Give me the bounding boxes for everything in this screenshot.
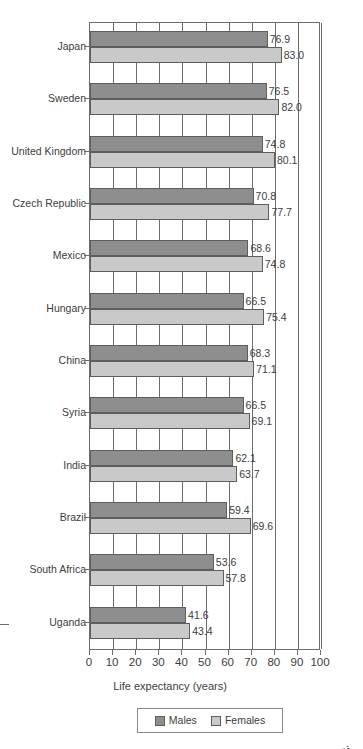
- category-label: Czech Republic: [0, 198, 86, 209]
- source-caption: Sigelman & Rider, Life-span human develo…: [339, 745, 350, 749]
- bar-females: 69.6: [90, 518, 251, 534]
- category-label: Syria: [0, 407, 86, 418]
- bar-group: 68.371.1: [90, 337, 319, 389]
- bar-value-label: 59.4: [229, 505, 249, 516]
- category-label: India: [0, 460, 86, 471]
- bar-value-label: 53.6: [216, 557, 236, 568]
- bar-males: 76.9: [90, 31, 268, 47]
- bar-group: 41.643.4: [90, 599, 319, 651]
- category-tick: [84, 255, 89, 256]
- bar-group: 62.163.7: [90, 442, 319, 494]
- source-caption-suffix: (4th ed.). Belmont, CA: Wadsworth/Thomso…: [338, 745, 350, 749]
- bar-group: 70.877.7: [90, 180, 319, 232]
- x-axis-tick: [89, 650, 90, 655]
- bar-males: 68.3: [90, 345, 248, 361]
- legend-swatch-icon: [155, 716, 165, 726]
- legend-item-females: Females: [211, 715, 265, 726]
- bar-value-label: 75.4: [266, 311, 286, 322]
- bar-value-label: 66.5: [246, 295, 266, 306]
- bar-females: 75.4: [90, 309, 264, 325]
- bar-females: 83.0: [90, 47, 282, 63]
- bar-value-label: 66.5: [246, 400, 266, 411]
- bar-females: 43.4: [90, 623, 190, 639]
- bar-males: 62.1: [90, 450, 233, 466]
- bar-value-label: 41.6: [188, 609, 208, 620]
- category-label: Brazil: [0, 512, 86, 523]
- legend-item-males: Males: [155, 715, 197, 726]
- bar-females: 80.1: [90, 152, 275, 168]
- category-tick: [84, 412, 89, 413]
- bar-females: 82.0: [90, 99, 279, 115]
- bar-males: 59.4: [90, 502, 227, 518]
- chart-plot-area: 76.983.076.582.074.880.170.877.768.674.8…: [89, 22, 320, 650]
- category-label: Uganda: [0, 617, 86, 628]
- bar-group: 76.582.0: [90, 75, 319, 127]
- chart-legend: MalesFemales: [137, 708, 283, 733]
- bar-females: 63.7: [90, 466, 237, 482]
- x-axis-tick: [135, 650, 136, 655]
- bar-males: 66.5: [90, 397, 244, 413]
- category-tick: [84, 360, 89, 361]
- bar-value-label: 82.0: [281, 102, 301, 113]
- x-axis-tick: [205, 650, 206, 655]
- bar-group: 53.657.8: [90, 546, 319, 598]
- bar-value-label: 69.6: [253, 521, 273, 532]
- category-tick: [84, 151, 89, 152]
- category-tick: [84, 465, 89, 466]
- bar-value-label: 80.1: [277, 154, 297, 165]
- category-label: Hungary: [0, 303, 86, 314]
- bar-value-label: 74.8: [265, 138, 285, 149]
- bar-group: 66.569.1: [90, 389, 319, 441]
- category-tick: [84, 622, 89, 623]
- x-axis-tick: [228, 650, 229, 655]
- life-expectancy-figure: 76.983.076.582.074.880.170.877.768.674.8…: [0, 0, 363, 749]
- bar-value-label: 76.9: [270, 34, 290, 45]
- legend-label: Males: [169, 715, 197, 726]
- x-axis-tick-label: 100: [300, 657, 340, 669]
- legend-swatch-icon: [211, 716, 221, 726]
- bar-value-label: 57.8: [226, 573, 246, 584]
- legend-label: Females: [225, 715, 265, 726]
- bar-value-label: 63.7: [239, 468, 259, 479]
- x-axis-tick: [320, 650, 321, 655]
- bar-females: 71.1: [90, 361, 254, 377]
- x-axis-tick: [158, 650, 159, 655]
- category-tick: [84, 46, 89, 47]
- bar-males: 66.5: [90, 293, 244, 309]
- x-axis-tick: [274, 650, 275, 655]
- bar-males: 74.8: [90, 136, 263, 152]
- category-label: Mexico: [0, 250, 86, 261]
- bar-value-label: 77.7: [271, 207, 291, 218]
- bar-value-label: 62.1: [235, 452, 255, 463]
- x-axis-tick: [112, 650, 113, 655]
- bar-group: 76.983.0: [90, 23, 319, 75]
- category-label: Japan: [0, 41, 86, 52]
- bar-females: 57.8: [90, 570, 224, 586]
- bar-males: 41.6: [90, 607, 186, 623]
- bar-males: 70.8: [90, 188, 254, 204]
- bar-group: 68.674.8: [90, 232, 319, 284]
- bar-females: 69.1: [90, 413, 250, 429]
- bar-males: 76.5: [90, 83, 267, 99]
- category-label: Sweden: [0, 93, 86, 104]
- category-tick: [84, 569, 89, 570]
- category-label: United Kingdom: [0, 146, 86, 157]
- bar-females: 77.7: [90, 204, 269, 220]
- bar-group: 59.469.6: [90, 494, 319, 546]
- x-axis-tick: [297, 650, 298, 655]
- bar-value-label: 76.5: [269, 86, 289, 97]
- bar-value-label: 68.6: [250, 243, 270, 254]
- bar-females: 74.8: [90, 256, 263, 272]
- bar-group: 74.880.1: [90, 128, 319, 180]
- gridline: [321, 23, 322, 649]
- bar-males: 68.6: [90, 240, 248, 256]
- bar-males: 53.6: [90, 554, 214, 570]
- category-tick: [84, 517, 89, 518]
- x-axis-tick: [181, 650, 182, 655]
- bar-value-label: 68.3: [250, 348, 270, 359]
- category-tick: [84, 203, 89, 204]
- bar-value-label: 83.0: [284, 50, 304, 61]
- x-axis-tick: [251, 650, 252, 655]
- bar-value-label: 70.8: [256, 191, 276, 202]
- bar-value-label: 71.1: [256, 364, 276, 375]
